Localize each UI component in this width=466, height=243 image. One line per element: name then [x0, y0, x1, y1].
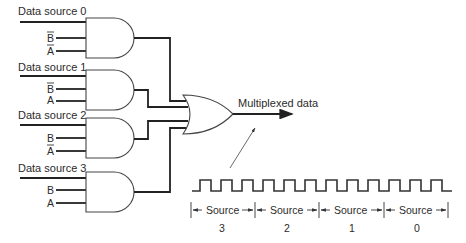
segment-2-label: Source	[270, 204, 303, 216]
gate-2-input-a-label: A	[47, 145, 54, 157]
segment-3-label: Source	[206, 204, 239, 216]
segment-3-number: 3	[219, 222, 225, 234]
data-source-3-label: Data source 3	[18, 162, 86, 174]
gate-2-input-b-label: B	[47, 132, 54, 144]
segment-0-number: 0	[414, 222, 420, 234]
and-gate-0: Data source 0 B A	[18, 5, 134, 58]
segment-1-label: Source	[334, 204, 367, 216]
and-gate-2-body	[86, 118, 134, 158]
multiplexer-diagram: Data source 0 B A Data source 1 B A Data…	[0, 0, 466, 243]
gate-3-input-a-label: A	[47, 197, 54, 209]
segment-source-1: Source 1	[321, 204, 382, 234]
gate-3-output-wire	[134, 128, 186, 192]
and-gate-1-body	[86, 70, 134, 110]
and-gate-2: Data source 2 B A	[18, 109, 134, 158]
and-gate-0-body	[86, 18, 134, 58]
segment-0-label: Source	[399, 204, 432, 216]
multiplexed-data-label: Multiplexed data	[238, 97, 319, 109]
segment-source-0: Source 0	[386, 204, 446, 234]
gate-0-input-a-label: A	[47, 45, 54, 57]
gate-1-output-wire	[134, 90, 188, 107]
gate-0-output-wire	[134, 38, 186, 101]
segment-2-number: 2	[284, 222, 290, 234]
gate-3-input-b-label: B	[47, 184, 54, 196]
segment-source-3: Source 3	[193, 204, 253, 234]
and-gate-3-body	[86, 172, 134, 212]
data-source-1-label: Data source 1	[18, 61, 86, 73]
gate-0-input-b-label: B	[47, 32, 54, 44]
or-gate-body	[183, 95, 233, 134]
gate-2-output-wire	[134, 121, 188, 139]
multiplexed-waveform	[192, 180, 452, 191]
waveform-pointer-arrow	[230, 128, 255, 168]
and-gate-3: Data source 3 B A	[18, 162, 134, 212]
and-gate-1: Data source 1 B A	[18, 61, 134, 110]
segment-source-2: Source 2	[257, 204, 317, 234]
segment-1-number: 1	[349, 222, 355, 234]
data-source-2-label: Data source 2	[18, 109, 86, 121]
data-source-0-label: Data source 0	[18, 5, 86, 17]
gate-1-input-a-label: A	[47, 94, 54, 106]
